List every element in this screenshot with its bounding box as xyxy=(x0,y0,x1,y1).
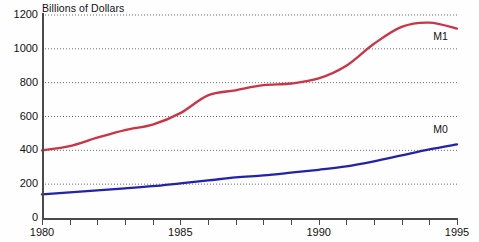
y-axis-line xyxy=(42,13,44,220)
x-tick xyxy=(263,219,264,225)
series-label-m1: M1 xyxy=(433,31,448,42)
y-tick-label: 400 xyxy=(20,144,38,155)
x-tick xyxy=(42,219,43,225)
x-tick-label: 1990 xyxy=(306,227,330,238)
y-tick-label: 600 xyxy=(20,111,38,122)
y-tick-label: 0 xyxy=(32,212,38,223)
x-tick xyxy=(153,219,154,225)
y-axis-tick-labels: 020040060080010001200 xyxy=(0,0,38,242)
y-tick-label: 200 xyxy=(20,178,38,189)
money-supply-line-chart: Billions of Dollars 02004006008001000120… xyxy=(0,0,479,242)
plot-area xyxy=(42,15,457,218)
x-tick xyxy=(97,219,98,225)
x-tick-label: 1985 xyxy=(168,227,192,238)
x-tick xyxy=(180,219,181,225)
x-tick-label: 1980 xyxy=(30,227,54,238)
x-tick xyxy=(291,219,292,225)
y-axis-title: Billions of Dollars xyxy=(42,2,124,14)
y-tick-label: 800 xyxy=(20,77,38,88)
series-line-m0 xyxy=(42,144,457,194)
series-line-m1 xyxy=(42,23,457,151)
x-tick xyxy=(429,219,430,225)
x-tick xyxy=(346,219,347,225)
x-tick-label: 1995 xyxy=(445,227,469,238)
y-tick-label: 1200 xyxy=(14,9,38,20)
x-tick xyxy=(319,219,320,225)
x-tick xyxy=(236,219,237,225)
x-tick xyxy=(125,219,126,225)
x-axis-line xyxy=(42,218,458,220)
x-tick xyxy=(208,219,209,225)
x-tick xyxy=(374,219,375,225)
series-layer xyxy=(42,15,457,218)
y-tick-label: 1000 xyxy=(14,43,38,54)
x-tick xyxy=(402,219,403,225)
series-label-m0: M0 xyxy=(433,124,448,135)
x-tick xyxy=(457,219,458,225)
x-tick xyxy=(70,219,71,225)
